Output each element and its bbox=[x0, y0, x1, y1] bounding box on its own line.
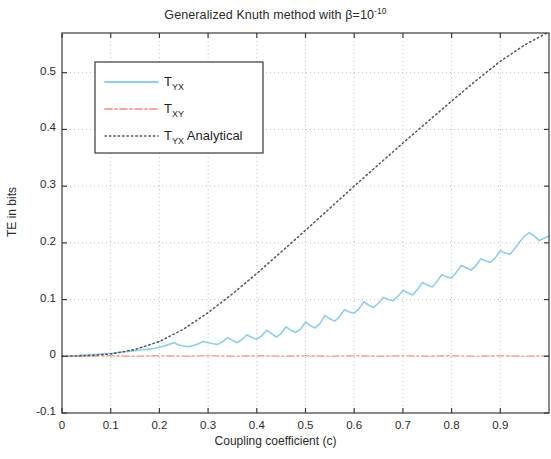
y-tick-label: 0.2 bbox=[16, 235, 56, 247]
x-tick-label: 0 bbox=[42, 419, 82, 431]
legend-item-2: TXY bbox=[164, 101, 184, 116]
y-tick-label: 0.4 bbox=[16, 121, 56, 133]
x-tick-label: 0.9 bbox=[480, 419, 520, 431]
y-tick-label: 0 bbox=[16, 348, 56, 360]
x-tick-label: 0.7 bbox=[383, 419, 423, 431]
x-tick-label: 0.4 bbox=[237, 419, 277, 431]
y-tick-label: 0.1 bbox=[16, 292, 56, 304]
y-axis-label: TE in bits bbox=[5, 162, 19, 262]
legend-label-subscript: YX bbox=[172, 82, 184, 92]
x-tick-label: 0.3 bbox=[188, 419, 228, 431]
y-tick-label: -0.1 bbox=[16, 405, 56, 417]
legend-label-main: T bbox=[164, 128, 172, 143]
x-tick-label: 0.1 bbox=[91, 419, 131, 431]
x-tick-label: 0.2 bbox=[139, 419, 179, 431]
legend-item-1: TYX bbox=[164, 74, 184, 89]
legend-label-main: T bbox=[164, 101, 172, 116]
y-tick-label: 0.5 bbox=[16, 65, 56, 77]
legend-label-extra: Analytical bbox=[184, 128, 243, 143]
legend-label-main: T bbox=[164, 74, 172, 89]
x-tick-label: 0.8 bbox=[432, 419, 472, 431]
chart-figure: Generalized Knuth method with β=10-10 Co… bbox=[0, 0, 551, 459]
legend-label-subscript: YX bbox=[172, 136, 184, 146]
plot-canvas bbox=[0, 0, 551, 459]
x-axis-label: Coupling coefficient (c) bbox=[0, 434, 551, 448]
legend-item-3: TYX Analytical bbox=[164, 128, 243, 143]
y-tick-label: 0.3 bbox=[16, 178, 56, 190]
legend-label-subscript: XY bbox=[172, 109, 184, 119]
x-tick-label: 0.6 bbox=[334, 419, 374, 431]
x-tick-label: 0.5 bbox=[286, 419, 326, 431]
